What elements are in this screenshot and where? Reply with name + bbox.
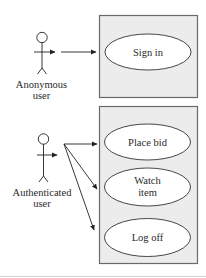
use-case-log-off[interactable]: Log off xyxy=(105,219,191,257)
actor-head-icon xyxy=(37,32,47,42)
actor-label-line2: user xyxy=(33,90,51,101)
actor-anonymous-user[interactable] xyxy=(34,32,55,74)
use-case-label-line2: item xyxy=(138,187,157,198)
use-case-diagram: Sign in Place bid Watch item Log off Ano… xyxy=(0,0,206,278)
use-case-label: Sign in xyxy=(133,47,164,58)
actor-label-line1: Anonymous xyxy=(16,79,67,90)
actor-label-line2: user xyxy=(33,198,51,209)
use-case-place-bid[interactable]: Place bid xyxy=(105,124,191,160)
use-case-label: Place bid xyxy=(128,137,168,148)
use-case-label-line1: Watch xyxy=(134,175,161,186)
actor-head-icon xyxy=(38,134,48,144)
actor-label-line1: Authenticated xyxy=(13,187,73,198)
use-case-watch-item[interactable]: Watch item xyxy=(105,168,191,206)
association-arrow xyxy=(64,144,97,189)
use-case-sign-in[interactable]: Sign in xyxy=(105,34,191,70)
actor-authenticated-user[interactable] xyxy=(37,134,57,182)
use-case-label: Log off xyxy=(132,232,164,243)
